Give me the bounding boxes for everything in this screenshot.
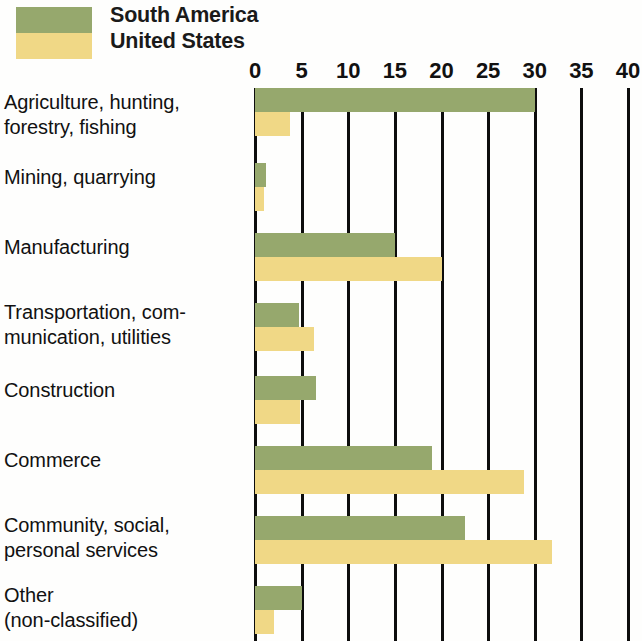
row-transportation-bar-south-america bbox=[255, 303, 299, 327]
x-tick-10: 10 bbox=[336, 58, 360, 84]
row-mining-bar-south-america bbox=[255, 163, 266, 187]
row-agriculture-label: Agriculture, hunting, forestry, fishing bbox=[4, 90, 250, 140]
x-tick-35: 35 bbox=[569, 58, 593, 84]
row-mining: Mining, quarrying bbox=[0, 163, 642, 223]
row-mining-bar-united-states bbox=[255, 187, 264, 211]
row-commerce-bar-south-america bbox=[255, 446, 432, 470]
legend-swatch-south-america bbox=[16, 7, 92, 33]
row-transportation-bar-united-states bbox=[255, 327, 314, 351]
x-tick-30: 30 bbox=[523, 58, 547, 84]
row-manufacturing-bar-united-states bbox=[255, 257, 442, 281]
legend-label-united-states: United States bbox=[110, 28, 258, 54]
row-community-label: Community, social, personal services bbox=[4, 513, 250, 563]
legend-swatch-united-states bbox=[16, 33, 92, 59]
row-commerce: Commerce bbox=[0, 446, 642, 506]
row-transportation: Transportation, com- munication, utiliti… bbox=[0, 303, 642, 363]
row-construction-bar-south-america bbox=[255, 376, 316, 400]
row-community: Community, social, personal services bbox=[0, 516, 642, 576]
row-agriculture-bar-south-america bbox=[255, 88, 535, 112]
row-manufacturing-label: Manufacturing bbox=[4, 235, 250, 260]
row-community-bar-south-america bbox=[255, 516, 465, 540]
row-construction-label: Construction bbox=[4, 378, 250, 403]
row-other-bar-south-america bbox=[255, 586, 302, 610]
x-tick-20: 20 bbox=[429, 58, 453, 84]
x-tick-0: 0 bbox=[249, 58, 261, 84]
x-tick-15: 15 bbox=[383, 58, 407, 84]
row-other-bar-united-states bbox=[255, 610, 274, 634]
chart-legend: South America United States bbox=[0, 0, 642, 62]
row-commerce-bar-united-states bbox=[255, 470, 524, 494]
chart-page: South America United States 051015202530… bbox=[0, 0, 642, 641]
legend-swatch-stack bbox=[16, 7, 92, 59]
row-mining-label: Mining, quarrying bbox=[4, 165, 250, 190]
row-agriculture-bar-united-states bbox=[255, 112, 290, 136]
legend-label-stack: South America United States bbox=[110, 2, 258, 54]
row-manufacturing: Manufacturing bbox=[0, 233, 642, 293]
row-manufacturing-bar-south-america bbox=[255, 233, 395, 257]
row-commerce-label: Commerce bbox=[4, 448, 250, 473]
row-construction: Construction bbox=[0, 376, 642, 436]
row-other-label: Other (non-classified) bbox=[4, 583, 250, 633]
row-agriculture: Agriculture, hunting, forestry, fishing bbox=[0, 88, 642, 148]
x-tick-40: 40 bbox=[616, 58, 640, 84]
row-construction-bar-united-states bbox=[255, 400, 300, 424]
row-transportation-label: Transportation, com- munication, utiliti… bbox=[4, 300, 250, 350]
row-community-bar-united-states bbox=[255, 540, 552, 564]
x-tick-25: 25 bbox=[476, 58, 500, 84]
plot-area: Agriculture, hunting, forestry, fishingM… bbox=[0, 88, 642, 641]
legend-label-south-america: South America bbox=[110, 2, 258, 28]
x-tick-5: 5 bbox=[296, 58, 308, 84]
x-axis-tick-labels: 0510152025303540 bbox=[0, 58, 642, 88]
row-other: Other (non-classified) bbox=[0, 586, 642, 641]
